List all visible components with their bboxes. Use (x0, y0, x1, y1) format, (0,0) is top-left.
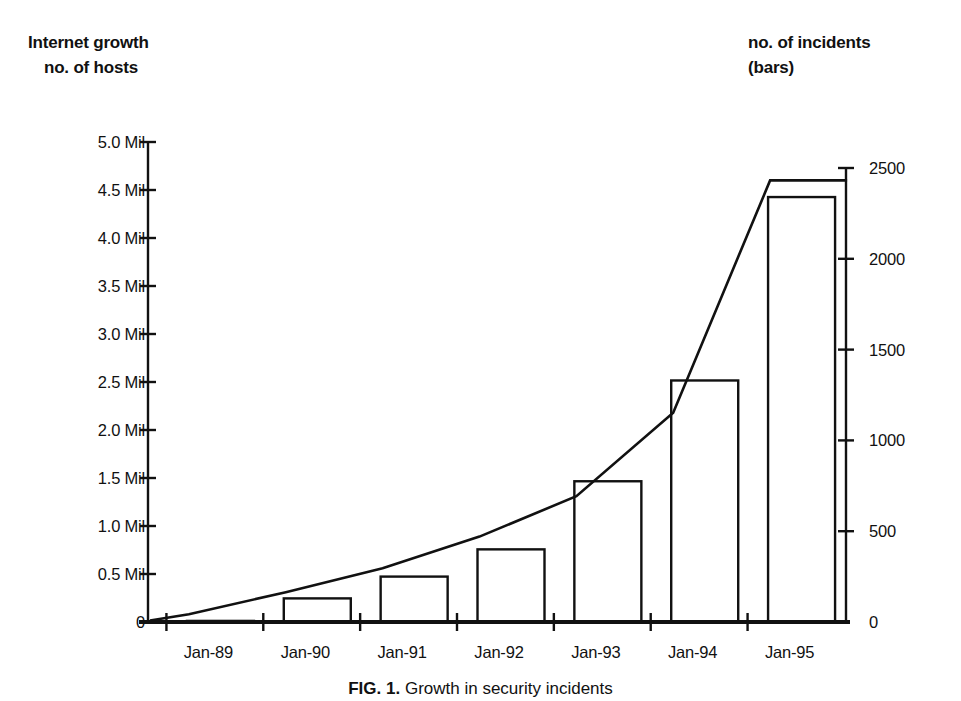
bar (284, 598, 351, 622)
bar (574, 481, 641, 622)
plot-area (0, 0, 961, 701)
bar (478, 549, 545, 622)
bar (768, 197, 835, 622)
figure-caption-text: Growth in security incidents (405, 679, 613, 698)
figure-label: FIG. 1. (348, 679, 400, 698)
figure-root: Internet growth no. of hosts no. of inci… (0, 0, 961, 701)
figure-caption: FIG. 1. Growth in security incidents (0, 679, 961, 701)
bar (671, 380, 738, 622)
bar (381, 577, 448, 622)
